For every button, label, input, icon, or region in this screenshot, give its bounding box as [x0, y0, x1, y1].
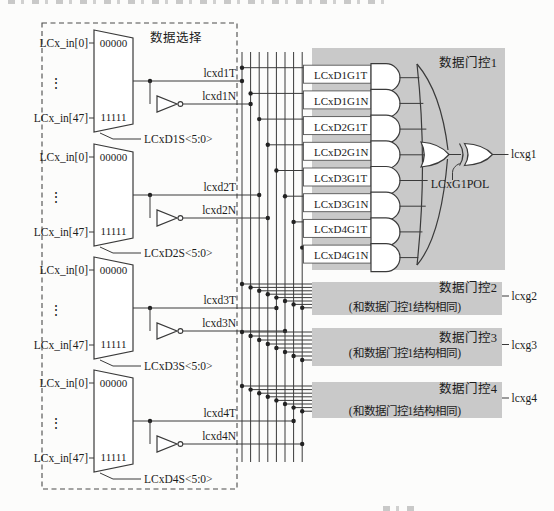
- gating4-note: (和数据门控1结构相同): [349, 404, 462, 418]
- junction-dot: [248, 102, 252, 106]
- gating1-input-label-7: LCxD4G1T: [314, 223, 367, 235]
- and-gate-8: [371, 244, 400, 272]
- junction-dot: [274, 168, 278, 172]
- junction-dot: [291, 354, 295, 358]
- gating2-note: (和数据门控1结构相同): [349, 300, 462, 314]
- mux-select-label: LCxD3S<5:0>: [144, 360, 213, 372]
- gating2-output-label: lcxg2: [512, 290, 538, 303]
- junction-dot: [257, 193, 261, 197]
- and-gate-5: [371, 167, 400, 195]
- mux-select-tail: [100, 473, 141, 479]
- mux-out-t-label: lcxd3T: [203, 294, 236, 306]
- mux-code-bottom: 11111: [101, 338, 127, 350]
- and-gate-1: [371, 64, 400, 92]
- junction-dot: [240, 66, 244, 70]
- inverter-triangle: [157, 210, 177, 226]
- inverter-bubble: [178, 442, 183, 447]
- junction-dot: [300, 306, 304, 310]
- mux-input-0-label: LCx_in[0]: [39, 37, 88, 49]
- junction-dot: [283, 299, 287, 303]
- mux-input-ellipsis: ⋮: [49, 303, 63, 318]
- gating3-note: (和数据门控1结构相同): [349, 346, 462, 360]
- junction-dot: [240, 384, 244, 388]
- and-gate-7: [371, 218, 400, 246]
- mux-code-bottom: 11111: [101, 225, 127, 237]
- gating1-input-label-5: LCxD3G1T: [314, 172, 367, 184]
- junction-dot: [291, 302, 295, 306]
- mux-input-ellipsis: ⋮: [49, 416, 63, 431]
- junction-dot: [300, 409, 304, 413]
- gating1-input-label-1: LCxD1G1T: [314, 69, 367, 81]
- mux-out-t-label: lcxd2T: [203, 181, 236, 193]
- junction-dot: [274, 398, 278, 402]
- junction-dot: [266, 395, 270, 399]
- mux-input-0-label: LCx_in[0]: [39, 151, 88, 163]
- gating2-title: 数据门控2: [439, 280, 497, 295]
- junction-dot: [291, 220, 295, 224]
- and-gate-3: [371, 115, 400, 143]
- gating1-input-label-8: LCxD4G1N: [314, 249, 368, 261]
- mux-out-t-label: lcxd1T: [203, 67, 236, 79]
- junction-dot: [257, 117, 261, 121]
- mux-input-47-label: LCx_in[47]: [34, 226, 88, 238]
- mux-out-n-label: lcxd3N: [202, 317, 237, 329]
- mux-select-label: LCxD2S<5:0>: [144, 247, 213, 259]
- mux-code-top: 00000: [100, 37, 128, 49]
- gating1-input-label-6: LCxD3G1N: [314, 198, 368, 210]
- junction-dot: [257, 289, 261, 293]
- mux-out-t-label: lcxd4T: [203, 407, 236, 419]
- junction-dot: [274, 295, 278, 299]
- junction-dot: [240, 79, 244, 83]
- circuit-diagram-figure: 数据选择0000011111LCx_in[0]LCx_in[47]⋮LCxD1S…: [0, 0, 554, 511]
- gating4-output-label: lcxg4: [512, 392, 538, 405]
- junction-dot: [291, 405, 295, 409]
- inverter-triangle: [157, 96, 177, 112]
- mux-input-ellipsis: ⋮: [49, 76, 63, 91]
- junction-dot: [248, 91, 252, 95]
- junction-dot: [266, 216, 270, 220]
- gating1-input-label-3: LCxD2G1T: [314, 121, 367, 133]
- junction-dot: [248, 285, 252, 289]
- junction-dot: [248, 387, 252, 391]
- junction-dot: [266, 143, 270, 147]
- inverter-triangle: [157, 436, 177, 452]
- mux-out-n-label: lcxd2N: [202, 204, 237, 216]
- gating1-title: 数据门控1: [439, 55, 497, 70]
- junction-dot: [291, 419, 295, 423]
- mux-input-0-label: LCx_in[0]: [39, 377, 88, 389]
- junction-dot: [266, 292, 270, 296]
- junction-dot: [274, 346, 278, 350]
- selection-title: 数据选择: [150, 30, 202, 45]
- inverter-bubble: [178, 102, 183, 107]
- junction-dot: [283, 402, 287, 406]
- mux-input-47-label: LCx_in[47]: [34, 339, 88, 351]
- gating1-output-label: lcxg1: [511, 148, 537, 161]
- junction-dot: [266, 342, 270, 346]
- junction-dot: [240, 282, 244, 286]
- mux-code-top: 00000: [100, 377, 128, 389]
- mux-code-top: 00000: [100, 151, 128, 163]
- pol-label: LCxG1POL: [431, 177, 490, 191]
- gating3-output-label: lcxg3: [512, 339, 538, 352]
- gating1-input-label-2: LCxD1G1N: [314, 95, 368, 107]
- and-gate-6: [371, 192, 400, 220]
- mux-code-bottom: 11111: [101, 451, 127, 463]
- mux-select-tail: [100, 247, 141, 253]
- mux-select-label: LCxD1S<5:0>: [144, 133, 213, 145]
- and-gate-2: [371, 89, 400, 117]
- inverter-triangle: [157, 323, 177, 339]
- junction-dot: [283, 329, 287, 333]
- junction-dot: [283, 350, 287, 354]
- gating3-title: 数据门控3: [439, 330, 497, 345]
- inverter-bubble: [178, 216, 183, 221]
- inverter-bubble: [178, 329, 183, 334]
- junction-dot: [300, 358, 304, 362]
- mux-out-n-label: lcxd4N: [202, 430, 237, 442]
- mux-select-label: LCxD4S<5:0>: [144, 473, 213, 485]
- and-gate-4: [371, 141, 400, 169]
- mux-input-ellipsis: ⋮: [49, 190, 63, 205]
- gating1-input-label-4: LCxD2G1N: [314, 146, 368, 158]
- junction-dot: [257, 338, 261, 342]
- mux-select-tail: [100, 133, 141, 139]
- junction-dot: [300, 442, 304, 446]
